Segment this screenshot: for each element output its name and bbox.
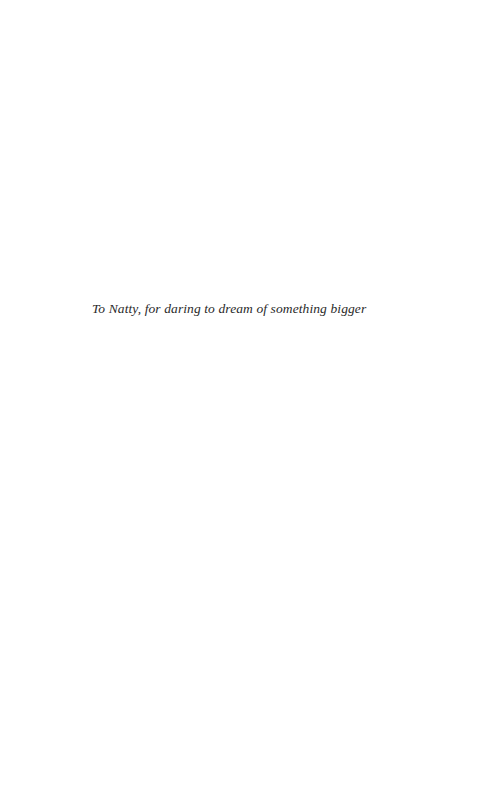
- dedication-text: To Natty, for daring to dream of somethi…: [92, 301, 366, 317]
- book-page: To Natty, for daring to dream of somethi…: [0, 0, 499, 790]
